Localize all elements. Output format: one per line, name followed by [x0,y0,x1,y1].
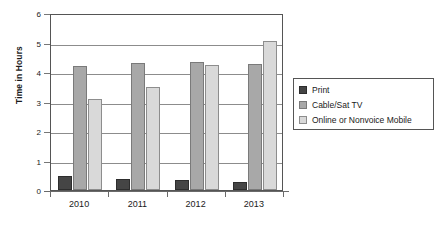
x-axis-tick [283,191,284,197]
plot-inner [51,15,282,190]
bar-chart: Time in Hours 0123456 2010201120122013 P… [0,0,438,229]
bar-cable-2011 [131,63,145,190]
bar-online-2010 [88,99,102,190]
legend-item-online[interactable]: Online or Nonvoice Mobile [299,113,428,127]
legend-label-online: Online or Nonvoice Mobile [312,116,412,125]
bar-online-2012 [205,65,219,190]
bar-print-2012 [175,180,189,190]
x-axis-tick [108,191,109,197]
legend-item-cable[interactable]: Cable/Sat TV [299,98,428,112]
plot-area [50,14,283,191]
x-axis-tick [50,191,51,197]
legend-item-print[interactable]: Print [299,83,428,97]
legend: PrintCable/Sat TVOnline or Nonvoice Mobi… [293,78,434,130]
y-axis-label: 5 [22,39,41,48]
bar-cable-2010 [73,66,87,190]
y-axis-label: 3 [22,98,41,107]
x-axis-label-2012: 2012 [173,199,219,209]
bar-cable-2012 [190,62,204,190]
y-axis-label: 0 [22,187,41,196]
legend-swatch-print [299,86,307,94]
bar-print-2011 [116,179,130,190]
y-axis-tick [44,14,50,15]
bar-online-2011 [146,87,160,190]
gridline [51,45,282,46]
x-axis-label-2013: 2013 [231,199,277,209]
legend-swatch-online [299,116,307,124]
y-axis-tick [44,132,50,133]
y-axis-label: 4 [22,69,41,78]
y-axis-tick [44,103,50,104]
legend-items: PrintCable/Sat TVOnline or Nonvoice Mobi… [299,83,428,127]
bar-print-2010 [58,176,72,190]
bar-cable-2013 [248,64,262,190]
bar-print-2013 [233,182,247,190]
legend-label-cable: Cable/Sat TV [312,101,362,110]
x-axis-tick [167,191,168,197]
x-axis-tick [225,191,226,197]
y-axis-tick [44,162,50,163]
x-axis-label-2011: 2011 [114,199,160,209]
y-axis-label: 2 [22,128,41,137]
bar-online-2013 [263,41,277,190]
y-axis-label: 6 [22,10,41,19]
y-axis-tick [44,73,50,74]
y-axis-label: 1 [22,157,41,166]
legend-label-print: Print [312,86,329,95]
y-axis-tick [44,44,50,45]
legend-swatch-cable [299,101,307,109]
x-axis-label-2010: 2010 [56,199,102,209]
